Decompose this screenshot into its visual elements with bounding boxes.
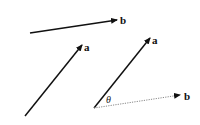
vector-label-a-left: a	[84, 41, 90, 53]
diagram-svg: b a a b θ	[0, 0, 200, 125]
vector-label-b-top: b	[120, 14, 126, 26]
vector-label-a-right: a	[152, 34, 158, 46]
angle-theta-label: θ	[106, 94, 111, 105]
vector-arrow-a-left	[25, 45, 82, 116]
vector-label-b-dotted: b	[184, 90, 190, 102]
vector-arrow-b-top	[30, 20, 117, 33]
vector-arrow-a-right	[94, 38, 150, 108]
vector-diagram: b a a b θ	[0, 0, 200, 125]
